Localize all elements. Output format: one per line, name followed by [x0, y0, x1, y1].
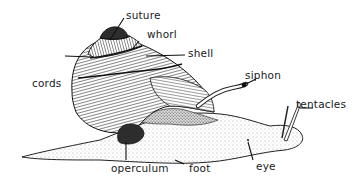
- label-tentacles: tentacles: [296, 99, 346, 110]
- label-operculum: operculum: [111, 163, 169, 174]
- label-eye: eye: [256, 161, 276, 172]
- eye-dot: [247, 139, 249, 141]
- label-cords: cords: [32, 78, 61, 89]
- label-foot: foot: [189, 163, 210, 174]
- snail-diagram: suture whorl shell cords siphon tentacle…: [0, 0, 361, 185]
- label-suture: suture: [126, 10, 161, 21]
- label-whorl: whorl: [147, 29, 177, 40]
- snail-illustration: [0, 0, 361, 185]
- foot-body: [22, 109, 303, 164]
- label-shell: shell: [188, 48, 213, 59]
- label-siphon: siphon: [245, 70, 281, 81]
